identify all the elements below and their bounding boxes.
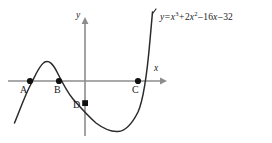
point-a-marker: [27, 78, 33, 84]
y-axis-label: y: [76, 11, 80, 21]
x-axis-label: x: [154, 64, 158, 74]
point-c-label: C: [132, 85, 139, 95]
equation-term3-coefficient: 16: [203, 12, 213, 22]
y-axis-arrowhead: [82, 17, 89, 24]
equation-term4-value: 32: [223, 12, 233, 22]
equation-term2-exponent: 2: [194, 10, 197, 17]
y-axis: [82, 17, 89, 136]
function-graph-figure: y x A B C D y=x3+2x2–16x–32: [0, 0, 272, 143]
equation-leader-line: [153, 9, 156, 13]
point-d-marker: [82, 100, 88, 106]
equation-label: y=x3+2x2–16x–32: [160, 13, 233, 23]
point-b-label: B: [54, 85, 61, 95]
cubic-curve: [15, 12, 153, 132]
point-d-label: D: [73, 100, 80, 110]
marked-points: [27, 78, 141, 106]
x-axis-arrowhead: [160, 78, 167, 85]
point-a-label: A: [20, 85, 27, 95]
